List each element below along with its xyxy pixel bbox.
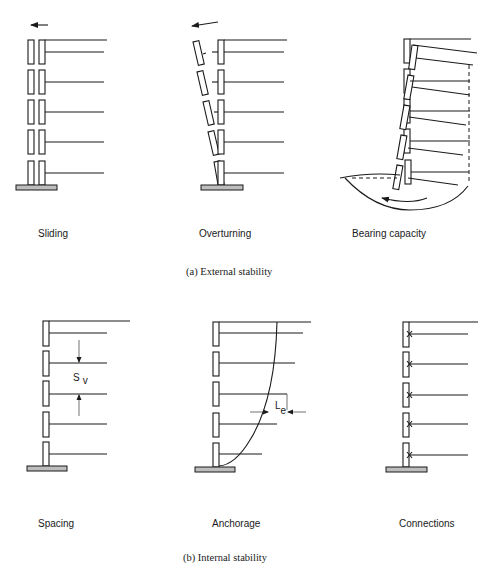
caption-external-stability: (a) External stability [186, 266, 273, 278]
label-connections: Connections [399, 518, 455, 529]
spacing-diagram: Sv [27, 321, 130, 471]
original-wall-panels [39, 40, 45, 185]
leveling-pad [201, 185, 243, 190]
connections-diagram [386, 322, 478, 472]
sliding-diagram [16, 25, 107, 190]
overturning-diagram [192, 22, 287, 190]
overturning-arrow-icon [192, 22, 218, 26]
label-sliding: Sliding [38, 228, 68, 239]
reinforcement-strips [409, 322, 478, 455]
anchorage-symbol: Le [275, 400, 287, 416]
wall-panels [43, 321, 49, 466]
original-wall-panels [218, 40, 224, 185]
leveling-pad [386, 467, 427, 472]
bearing-capacity-diagram [340, 39, 477, 210]
displaced-wall-panels [28, 40, 34, 185]
spacing-symbol: Sv [73, 372, 88, 386]
leveling-pad [16, 185, 57, 190]
wall-panels [403, 322, 409, 467]
reinforcement-strips [224, 40, 287, 173]
label-spacing: Spacing [38, 518, 74, 529]
reinforcement-strips [45, 40, 107, 173]
ground-surface [340, 174, 400, 178]
reinforcement-strips [49, 321, 130, 454]
rotation-arrow-icon [382, 198, 427, 202]
anchorage-diagram: Le [195, 322, 311, 472]
wall-panels [213, 322, 219, 467]
leveling-pad [27, 466, 67, 471]
reinforcement-strips [219, 322, 311, 454]
leveling-pad [195, 467, 235, 472]
reinforcement-strips [408, 39, 477, 185]
caption-internal-stability: (b) Internal stability [183, 552, 268, 564]
label-overturning: Overturning [199, 228, 251, 239]
stability-diagram: Sliding Overturning Bearing capacity (a)… [0, 0, 494, 564]
label-anchorage: Anchorage [212, 518, 261, 529]
label-bearing-capacity: Bearing capacity [352, 228, 426, 239]
